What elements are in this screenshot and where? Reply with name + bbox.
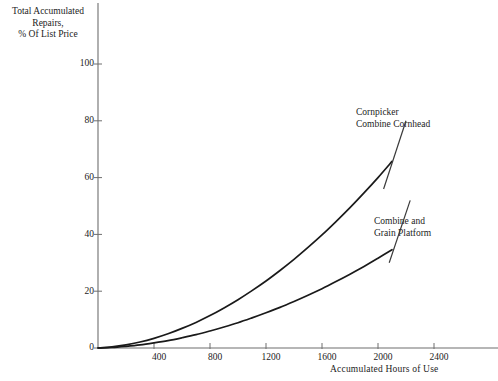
leader-line-combine <box>389 200 410 262</box>
leader-line-cornpicker <box>384 121 406 189</box>
series-line-combine-and-grain-platform <box>98 250 392 348</box>
chart-figure: Total Accumulated Repairs, % Of List Pri… <box>0 0 498 381</box>
plot-area <box>0 0 498 381</box>
axis-lines <box>98 3 498 348</box>
